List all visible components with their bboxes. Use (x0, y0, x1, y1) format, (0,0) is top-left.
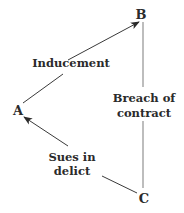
edge-inducement-line-upper (68, 22, 139, 60)
node-a: A (12, 103, 24, 118)
edge-label-breach-line1: Breach of (113, 91, 177, 105)
edge-label-sues-line1: Sues in (48, 150, 96, 164)
node-b: B (136, 7, 147, 22)
edge-breach-of-contract: Breach of contract (113, 22, 177, 188)
edge-sues-line-upper (24, 117, 68, 146)
edge-label-breach-line2: contract (117, 106, 172, 120)
edge-label-sues-line2: delict (54, 164, 91, 178)
diagram: Inducement Breach of contract Sues in de… (0, 0, 184, 213)
edge-inducement-line-lower (23, 74, 63, 103)
node-c: C (139, 191, 149, 206)
edge-sues-in-delict: Sues in delict (24, 117, 137, 193)
edge-label-inducement: Inducement (32, 56, 110, 70)
edge-sues-line-lower (102, 176, 137, 193)
